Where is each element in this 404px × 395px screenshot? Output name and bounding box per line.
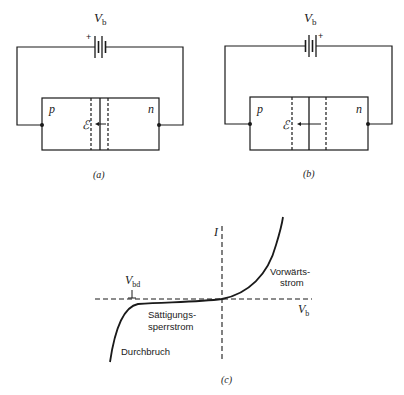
forward-current-label-1: Vorwärts- — [270, 266, 310, 277]
battery-label-b: Vb — [304, 10, 317, 27]
terminal-dot-p-a — [40, 123, 44, 127]
field-label-a: ℰ — [82, 118, 91, 132]
caption-a: (a) — [93, 169, 105, 181]
figure-b: Vb + ℰ p n (b) — [225, 10, 392, 180]
terminal-dot-n-b — [366, 122, 370, 126]
y-axis-label: I — [213, 225, 219, 239]
terminal-dot-n-a — [157, 123, 161, 127]
region-p-a: p — [48, 102, 55, 116]
wire-right-b — [316, 46, 392, 124]
terminal-dot-p-b — [248, 122, 252, 126]
wire-left-b — [225, 46, 305, 124]
figure-a: Vb + ℰ p n (a) — [17, 10, 183, 181]
battery-label-a: Vb — [94, 10, 107, 27]
diode-diagram: Vb + ℰ p n (a) Vb — [0, 0, 404, 395]
caption-b: (b) — [303, 168, 315, 180]
x-axis-label: Vb — [298, 302, 309, 318]
caption-c: (c) — [221, 374, 233, 386]
battery-icon-b — [306, 35, 317, 57]
plus-sign-b: + — [318, 31, 323, 41]
region-p-b: p — [256, 102, 263, 116]
arrowhead-b — [297, 122, 301, 126]
battery-icon-a — [95, 36, 106, 58]
plus-sign-a: + — [86, 32, 91, 42]
forward-current-label-2: strom — [280, 277, 304, 288]
wire-left-a — [17, 47, 95, 125]
breakdown-voltage-label: Vbd — [125, 273, 140, 289]
saturation-current-label-1: Sättigungs- — [148, 309, 196, 320]
saturation-current-label-2: sperrstrom — [148, 321, 193, 332]
iv-curve — [110, 217, 283, 362]
breakdown-label: Durchbruch — [121, 346, 170, 357]
field-label-b: ℰ — [282, 118, 291, 132]
figure-c-iv-curve: I Vb Vbd Vorwärts- strom Sättigungs- spe… — [95, 217, 312, 386]
arrowhead-a — [95, 122, 99, 126]
wire-right-a — [106, 47, 183, 125]
region-n-a: n — [148, 102, 154, 116]
region-n-b: n — [356, 102, 362, 116]
